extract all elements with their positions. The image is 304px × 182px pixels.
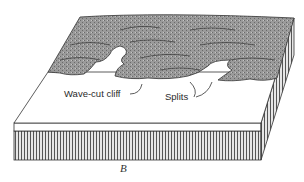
label-wave-cut-cliff: Wave-cut cliff [64, 88, 121, 99]
front-face [14, 131, 261, 160]
block-diagram [0, 0, 304, 182]
figure-caption: B [120, 162, 127, 174]
front-top-strip [14, 123, 261, 131]
dissected-plateau [48, 15, 294, 81]
label-splits: Splits [165, 91, 188, 102]
